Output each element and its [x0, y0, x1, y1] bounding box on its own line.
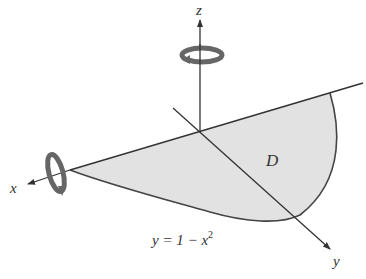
- z-axis-label: z: [195, 2, 202, 18]
- equation-body: y = 1 − x: [150, 232, 208, 248]
- region-d: [70, 93, 337, 221]
- region-label: D: [265, 151, 279, 170]
- diagram-canvas: z x y D y = 1 − x2: [0, 0, 366, 279]
- equation-exponent: 2: [208, 229, 213, 240]
- rotation-arrow-z-icon: [182, 44, 222, 66]
- x-axis-label: x: [9, 180, 17, 196]
- boundary-equation: y = 1 − x2: [150, 229, 213, 248]
- y-axis-label: y: [331, 253, 340, 269]
